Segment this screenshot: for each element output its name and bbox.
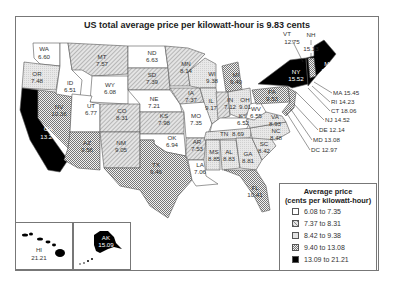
value-nc: 8.48 [270,134,283,141]
svg-text:ME: ME [324,60,333,67]
value-wy: 6.08 [104,88,117,95]
svg-text:LA: LA [196,161,204,168]
svg-text:ID: ID [67,79,74,86]
svg-text:OR: OR [32,70,42,77]
value-ny: 15.52 [288,75,304,82]
value-ky: 6.52 [237,119,250,126]
svg-text:NV: NV [55,103,64,110]
value-mi: 9.40 [230,78,243,85]
legend-item-1: 6.08 to 7.35 [280,205,376,217]
callout-ri: RI 14.23 [331,98,355,105]
callout-md: MD 13.08 [313,136,340,143]
value-ar: 7.53 [191,145,204,152]
inset-hawaii: HI 21.21 [15,222,73,270]
value-la: 7.06 [194,168,207,175]
svg-text:IN: IN [227,96,233,103]
svg-text:FL: FL [251,184,259,191]
value-fl: 10.41 [247,191,263,198]
value-mt: 7.57 [96,60,109,67]
swatch-hatch [292,220,299,227]
callout-ct: CT 18.06 [331,107,357,114]
value-ks: 7.98 [158,119,171,126]
value-hi: 21.21 [31,254,47,261]
svg-text:NY: NY [292,68,301,75]
value-nm: 9.05 [115,146,128,153]
legend: Average price (cents per kilowatt-hour) … [279,183,377,271]
value-il: 9.17 [205,104,218,111]
value-pa: 9.53 [266,95,279,102]
svg-text:PA: PA [268,88,277,95]
svg-text:WY: WY [105,81,115,88]
legend-item-2: 7.37 to 8.31 [280,217,376,229]
value-ms: 8.85 [208,155,221,162]
svg-text:NE: NE [150,95,159,102]
value-mn: 8.14 [180,67,193,74]
value-wi: 9.38 [206,77,219,84]
value-ga: 8.81 [242,157,255,164]
value-sd: 7.39 [146,78,159,85]
value-ok: 6.94 [166,141,179,148]
svg-text:OH: OH [240,96,249,103]
svg-text:VT: VT [283,30,291,37]
value-va: 8.93 [269,120,282,127]
callout-de: DE 12.14 [319,126,345,133]
svg-text:WI: WI [208,70,216,77]
value-az: 9.56 [81,146,94,153]
svg-text:AZ: AZ [83,139,91,146]
value-in: 7.12 [224,103,237,110]
value-wa: 6.60 [38,53,51,60]
svg-text:MS: MS [209,148,218,155]
svg-text:MT: MT [98,53,107,60]
value-ia: 7.37 [185,96,198,103]
value-vt: 12.75 [284,38,300,45]
svg-text:WV: WV [251,105,262,112]
svg-text:MN: MN [181,60,191,67]
callout-dc: DC 12.97 [311,146,338,153]
value-tx: 9.46 [150,168,163,175]
svg-text:AR: AR [193,138,202,145]
legend-item-4: 9.40 to 13.08 [280,241,376,253]
value-ne: 7.21 [148,102,161,109]
value-mo: 7.35 [190,119,203,126]
hawaii-shape: HI 21.21 [16,223,74,271]
svg-text:HI: HI [36,246,42,253]
svg-text:MI: MI [233,71,240,78]
svg-text:TX: TX [152,161,160,168]
svg-text:VA: VA [271,113,280,120]
swatch-checkered [292,244,299,251]
svg-text:CO: CO [117,107,126,114]
svg-text:NM: NM [116,139,126,146]
callout-nj: NJ 14.52 [325,116,350,123]
svg-text:OK: OK [168,134,178,141]
value-id: 6.51 [64,86,77,93]
value-sc: 8.42 [258,147,271,154]
alaska-shape: AK 15.09 [74,223,132,271]
svg-text:UT: UT [87,102,95,109]
svg-text:KS: KS [160,112,168,119]
svg-text:SD: SD [148,71,157,78]
swatch-black [292,256,299,263]
svg-text:MO: MO [191,112,201,119]
value-nd: 6.63 [146,56,159,63]
value-tn: 8.69 [232,130,245,137]
value-ca: 13.24 [40,133,56,140]
value-or: 7.48 [31,77,44,84]
svg-text:CA: CA [44,125,53,132]
svg-text:KY: KY [239,112,247,119]
swatch-white [292,208,299,215]
value-ak: 15.09 [98,241,114,248]
svg-text:IA: IA [188,89,195,96]
legend-heading: Average price (cents per kilowatt-hour) [280,187,376,205]
svg-text:IL: IL [208,97,214,104]
value-ut: 6.77 [85,109,98,116]
value-co: 8.31 [116,114,129,121]
value-me: 13.09 [321,67,337,74]
inset-alaska: AK 15.09 [73,222,131,270]
value-wv: 6.55 [250,112,263,119]
svg-text:AL: AL [225,148,233,155]
svg-text:GA: GA [244,150,254,157]
legend-item-3: 8.42 to 9.38 [280,229,376,241]
value-oh: 9.01 [239,103,252,110]
svg-text:SC: SC [260,140,269,147]
svg-text:ND: ND [148,49,157,56]
